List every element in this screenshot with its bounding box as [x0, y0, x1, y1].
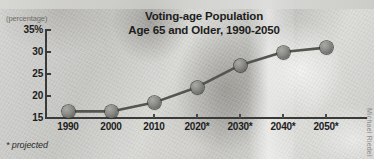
x-tick-label: 2020*: [174, 121, 220, 132]
data-point-marker: [191, 81, 204, 94]
y-tick: [45, 29, 51, 31]
data-point-marker: [62, 105, 75, 118]
data-point-marker: [148, 96, 161, 109]
chart-title-line-2: Age 65 and Older, 1990-2050: [108, 24, 300, 38]
x-tick: [325, 114, 327, 118]
x-tick-label: 2030*: [217, 121, 263, 132]
y-tick: [45, 117, 51, 119]
y-tick: [45, 73, 51, 75]
x-tick-label: 2050*: [303, 121, 349, 132]
y-tick-label: 20: [3, 90, 43, 101]
x-tick-label: 1990: [45, 121, 91, 132]
data-point-marker: [277, 46, 290, 59]
chart-screenshot: (percentage) Voting-age Population Age 6…: [0, 0, 374, 159]
data-point-marker: [234, 59, 247, 72]
data-point-marker: [320, 41, 333, 54]
chart-title-line-1: Voting-age Population: [108, 10, 300, 24]
photo-credit: Michael Riedel: [366, 108, 373, 157]
y-tick: [45, 51, 51, 53]
x-tick: [239, 114, 241, 118]
x-tick-label: 2010: [131, 121, 177, 132]
data-point-marker: [105, 105, 118, 118]
y-tick-label: 30: [3, 46, 43, 57]
y-tick: [45, 95, 51, 97]
line-chart: (percentage) Voting-age Population Age 6…: [0, 0, 374, 159]
x-tick: [282, 114, 284, 118]
x-tick-label: 2040*: [260, 121, 306, 132]
footnote: * projected: [6, 140, 48, 150]
y-tick-label: 15: [3, 112, 43, 123]
x-tick-label: 2000: [88, 121, 134, 132]
chart-title: Voting-age Population Age 65 and Older, …: [108, 10, 300, 37]
y-axis-unit-label: (percentage): [6, 14, 47, 23]
x-tick: [196, 114, 198, 118]
y-tick-label: 25: [3, 68, 43, 79]
x-axis-line: [45, 117, 367, 119]
y-tick-label: 35%: [3, 24, 43, 35]
x-tick: [153, 114, 155, 118]
